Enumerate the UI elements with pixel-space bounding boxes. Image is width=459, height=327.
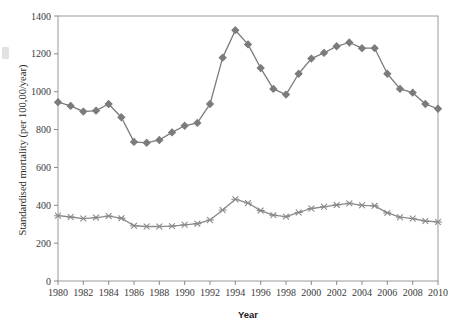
data-point-marker <box>194 120 201 127</box>
x-tick-label: 1990 <box>175 287 195 298</box>
y-axis-ticks: 0200400600800100012001400 <box>31 11 58 287</box>
data-point-marker <box>92 215 99 220</box>
data-point-marker <box>371 203 378 208</box>
data-point-marker <box>207 101 214 108</box>
y-tick-label: 400 <box>36 200 51 211</box>
data-point-marker <box>181 222 188 227</box>
x-tick-label: 1982 <box>73 287 93 298</box>
series-upper-series <box>55 27 442 146</box>
y-tick-label: 1200 <box>31 48 51 59</box>
data-point-marker <box>168 224 175 229</box>
data-point-marker <box>80 216 87 221</box>
data-point-marker <box>396 215 403 220</box>
data-point-marker <box>283 91 290 98</box>
data-point-marker <box>194 221 201 226</box>
x-tick-label: 1988 <box>149 287 169 298</box>
x-tick-label: 2002 <box>327 287 347 298</box>
data-point-marker <box>67 103 74 110</box>
x-axis-title: Year <box>238 309 258 320</box>
x-tick-label: 1996 <box>251 287 271 298</box>
x-tick-label: 2008 <box>403 287 423 298</box>
x-tick-label: 1992 <box>200 287 220 298</box>
series-lower-series <box>54 197 441 229</box>
data-point-marker <box>143 139 150 146</box>
data-point-marker <box>358 203 365 208</box>
data-point-marker <box>156 137 163 144</box>
data-point-marker <box>409 216 416 221</box>
data-point-marker <box>55 99 62 106</box>
data-point-marker <box>422 218 429 223</box>
y-tick-label: 1400 <box>31 11 51 22</box>
data-point-marker <box>282 214 289 219</box>
data-point-marker <box>130 223 137 228</box>
data-point-marker <box>321 50 328 57</box>
x-tick-label: 2000 <box>301 287 321 298</box>
data-point-marker <box>143 224 150 229</box>
data-point-marker <box>232 197 239 202</box>
data-point-marker <box>333 43 340 50</box>
x-tick-label: 2006 <box>377 287 397 298</box>
y-axis-title: Standardised mortality (per 100,00/year) <box>17 64 29 235</box>
data-point-marker <box>118 216 125 221</box>
x-axis-ticks: 1980198219841986198819901992199419961998… <box>48 281 448 298</box>
y-tick-label: 600 <box>36 162 51 173</box>
data-point-marker <box>257 65 264 72</box>
data-point-marker <box>359 45 366 52</box>
x-tick-label: 1998 <box>276 287 296 298</box>
x-tick-label: 1994 <box>225 287 245 298</box>
data-point-marker <box>244 200 251 205</box>
data-point-marker <box>320 204 327 209</box>
data-point-marker <box>371 45 378 52</box>
line-chart: 0200400600800100012001400 19801982198419… <box>0 0 459 327</box>
data-point-marker <box>219 207 226 212</box>
data-series-layer <box>54 27 441 229</box>
data-point-marker <box>169 129 176 136</box>
data-point-marker <box>156 224 163 229</box>
data-point-marker <box>333 202 340 207</box>
data-point-marker <box>206 217 213 222</box>
data-point-marker <box>257 208 264 213</box>
plot-frame <box>58 16 438 281</box>
data-point-marker <box>181 122 188 129</box>
chart-figure: 0200400600800100012001400 19801982198419… <box>0 0 459 327</box>
data-point-marker <box>295 210 302 215</box>
y-tick-label: 0 <box>46 276 51 287</box>
data-point-marker <box>67 214 74 219</box>
y-tick-label: 800 <box>36 124 51 135</box>
data-point-marker <box>435 105 442 112</box>
data-point-marker <box>219 54 226 61</box>
data-point-marker <box>105 213 112 218</box>
data-point-marker <box>80 108 87 115</box>
y-tick-label: 1000 <box>31 86 51 97</box>
y-tick-label: 200 <box>36 238 51 249</box>
data-point-marker <box>131 138 138 145</box>
x-tick-label: 1980 <box>48 287 68 298</box>
data-point-marker <box>270 85 277 92</box>
data-point-marker <box>346 39 353 46</box>
x-tick-label: 1984 <box>99 287 119 298</box>
x-tick-label: 2004 <box>352 287 372 298</box>
data-point-marker <box>384 210 391 215</box>
data-point-marker <box>270 213 277 218</box>
data-point-marker <box>93 107 100 114</box>
data-point-marker <box>346 201 353 206</box>
x-tick-label: 1986 <box>124 287 144 298</box>
data-point-marker <box>308 206 315 211</box>
x-tick-label: 2010 <box>428 287 448 298</box>
